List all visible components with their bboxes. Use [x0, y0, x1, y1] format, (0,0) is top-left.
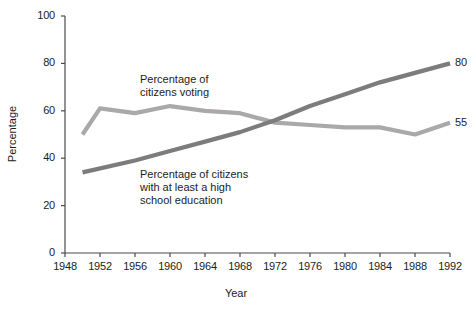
- y-tick-label: 100: [29, 9, 55, 21]
- x-tick-label: 1948: [48, 260, 82, 272]
- annotation-education: Percentage of citizens with at least a h…: [140, 168, 248, 207]
- y-tick-label: 80: [29, 56, 55, 68]
- y-tick-label: 40: [29, 151, 55, 163]
- y-tick-label: 60: [29, 104, 55, 116]
- x-tick-label: 1980: [328, 260, 362, 272]
- x-tick-label: 1972: [258, 260, 292, 272]
- series-line: [83, 106, 451, 134]
- axes: [61, 16, 450, 257]
- x-tick-label: 1968: [223, 260, 257, 272]
- end-value-label-voting: 55: [455, 116, 467, 128]
- y-tick-label: 20: [29, 199, 55, 211]
- end-value-label-education: 80: [455, 56, 467, 68]
- x-tick-label: 1992: [433, 260, 467, 272]
- series-line: [83, 63, 451, 172]
- x-tick-label: 1988: [398, 260, 432, 272]
- y-tick-label: 0: [29, 246, 55, 258]
- x-tick-label: 1984: [363, 260, 397, 272]
- x-tick-label: 1964: [188, 260, 222, 272]
- y-axis-title: Percentage: [6, 94, 18, 174]
- annotation-voting: Percentage of citizens voting: [140, 73, 209, 99]
- x-tick-label: 1956: [118, 260, 152, 272]
- line-chart: 0 20 40 60 80 100 1948 1952 1956 1960 19…: [0, 0, 474, 317]
- data-series: [83, 63, 451, 172]
- x-tick-label: 1976: [293, 260, 327, 272]
- x-tick-label: 1952: [83, 260, 117, 272]
- x-tick-label: 1960: [153, 260, 187, 272]
- x-axis-title: Year: [196, 287, 276, 299]
